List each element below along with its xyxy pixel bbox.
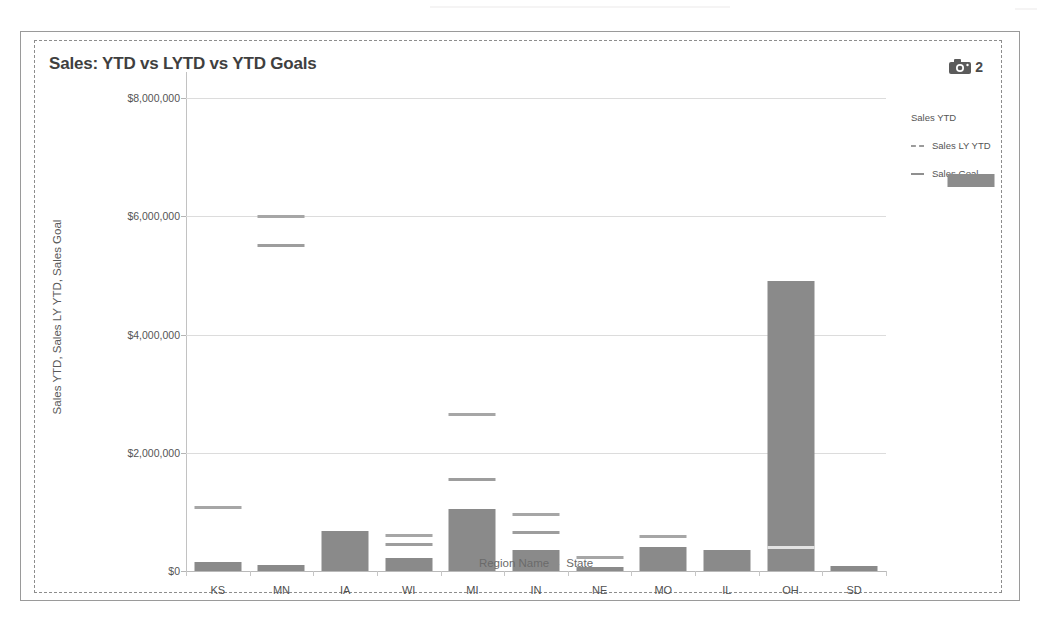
x-axis-tick-mark [695, 571, 696, 576]
x-axis-tick-mark [631, 571, 632, 576]
x-axis-tick-label: SD [819, 584, 889, 596]
chart-category-column[interactable] [822, 98, 886, 571]
chart-category-column[interactable] [441, 98, 505, 571]
y-axis-title: Sales YTD, Sales LY YTD, Sales Goal [51, 127, 63, 507]
x-axis-tick-label: MI [437, 584, 507, 596]
y-axis-tick-label: $2,000,000 [127, 447, 180, 459]
y-axis-tick-label: $8,000,000 [127, 92, 180, 104]
x-axis-tick-mark [186, 571, 187, 576]
x-axis-title: Region Name▸State [186, 557, 886, 569]
chart-category-column[interactable] [504, 98, 568, 571]
marker-sales-ly-ytd[interactable] [385, 534, 432, 537]
marker-sales-ly-ytd[interactable] [640, 535, 687, 538]
scan-artifact [430, 6, 730, 8]
chart-category-column[interactable] [186, 98, 250, 571]
x-axis-tick-mark [759, 571, 760, 576]
chart-panel-selected[interactable]: Sales: YTD vs LYTD vs YTD Goals 2 Sales … [34, 40, 1002, 593]
x-axis-tick-mark [313, 571, 314, 576]
x-axis-tick-label: WI [374, 584, 444, 596]
x-axis-tick-mark [886, 571, 887, 576]
marker-sales-ly-ytd[interactable] [449, 413, 496, 416]
marker-sales-ly-ytd[interactable] [512, 513, 559, 516]
marker-sales-ly-ytd[interactable] [258, 215, 305, 218]
chart-category-column[interactable] [377, 98, 441, 571]
y-axis-tick-label: $4,000,000 [127, 329, 180, 341]
x-axis-tick-mark [250, 571, 251, 576]
x-axis-tick-label: IA [310, 584, 380, 596]
bar-sales-ytd[interactable] [767, 281, 814, 571]
marker-sales-ly-ytd[interactable] [194, 506, 241, 509]
y-axis-tick-label: $6,000,000 [127, 210, 180, 222]
x-axis-tick-label: NE [565, 584, 635, 596]
x-axis-title-secondary: State [566, 557, 593, 569]
x-axis-title-separator: ▸ [549, 559, 566, 569]
marker-sales-ly-ytd[interactable] [767, 546, 814, 549]
x-axis-tick-label: OH [756, 584, 826, 596]
chart-category-column[interactable] [759, 98, 823, 571]
gridline [186, 571, 886, 572]
chart-category-column[interactable] [695, 98, 759, 571]
marker-sales-goal[interactable] [258, 244, 305, 247]
y-axis-tick-label: $0 [168, 565, 180, 577]
x-axis-tick-label: IL [692, 584, 762, 596]
plot-wrapper: Sales YTD, Sales LY YTD, Sales Goal $0$2… [35, 41, 1001, 592]
chart-category-column[interactable] [313, 98, 377, 571]
marker-sales-goal[interactable] [385, 543, 432, 546]
plot-area: $0$2,000,000$4,000,000$6,000,000$8,000,0… [186, 98, 886, 571]
x-axis-tick-mark [504, 571, 505, 576]
chart-category-column[interactable] [568, 98, 632, 571]
x-axis-tick-mark [377, 571, 378, 576]
marker-sales-goal[interactable] [512, 531, 559, 534]
x-axis-title-primary: Region Name [479, 557, 549, 569]
chart-category-column[interactable] [631, 98, 695, 571]
x-axis-tick-mark [441, 571, 442, 576]
report-object-frame: Sales: YTD vs LYTD vs YTD Goals 2 Sales … [20, 31, 1020, 601]
scan-artifact [1015, 8, 1037, 10]
x-axis-tick-mark [568, 571, 569, 576]
marker-sales-goal[interactable] [449, 478, 496, 481]
chart-category-column[interactable] [250, 98, 314, 571]
x-axis-tick-label: KS [183, 584, 253, 596]
x-axis-tick-label: IN [501, 584, 571, 596]
x-axis-tick-label: MO [628, 584, 698, 596]
x-axis-tick-mark [822, 571, 823, 576]
x-axis-tick-label: MN [246, 584, 316, 596]
